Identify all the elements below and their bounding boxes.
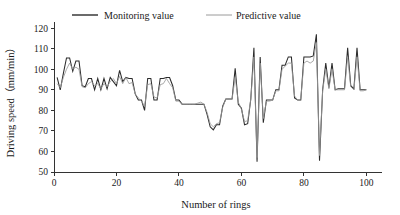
x-tick-label: 0 — [52, 178, 57, 188]
x-axis-tick-labels: 020406080100 — [52, 178, 374, 188]
chart-figure: 5060708090100110120 020406080100 Monitor… — [0, 0, 400, 215]
y-tick-label: 80 — [39, 106, 49, 116]
chart-legend: Monitoring valuePredictive value — [72, 10, 301, 21]
x-axis-title: Number of rings — [181, 199, 250, 210]
y-tick-label: 100 — [34, 65, 49, 75]
y-tick-label: 60 — [39, 147, 49, 157]
series-predictive-value — [57, 43, 366, 158]
x-tick-label: 80 — [299, 178, 309, 188]
legend-label-monitoring: Monitoring value — [104, 10, 174, 21]
x-tick-label: 40 — [174, 178, 184, 188]
axes — [54, 22, 382, 172]
y-axis-tick-labels: 5060708090100110120 — [34, 24, 49, 178]
legend-label-predictive: Predictive value — [236, 10, 301, 21]
data-series — [57, 34, 366, 161]
y-tick-label: 110 — [34, 44, 48, 54]
y-tick-label: 50 — [39, 167, 49, 177]
y-tick-label: 70 — [39, 126, 49, 136]
x-tick-label: 60 — [237, 178, 247, 188]
x-tick-label: 100 — [359, 178, 374, 188]
y-axis-title: Driving speed（mm/min） — [5, 43, 16, 158]
y-tick-label: 90 — [39, 85, 49, 95]
y-tick-label: 120 — [34, 24, 49, 34]
line-chart: 5060708090100110120 020406080100 Monitor… — [0, 0, 400, 215]
x-tick-label: 20 — [112, 178, 122, 188]
